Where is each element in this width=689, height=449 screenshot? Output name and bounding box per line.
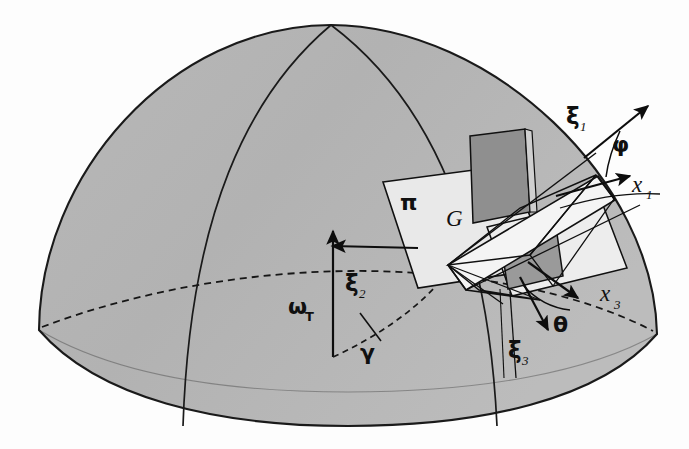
figure-root: ξ 1 φ x 1 π G ξ 2 x 3 ω T θ xyxy=(0,0,689,449)
label-xi3-symbol: ξ xyxy=(508,337,522,363)
label-x1: x 1 xyxy=(631,172,653,202)
label-xi2-subscript: 2 xyxy=(359,286,366,301)
label-phi: φ xyxy=(612,132,629,157)
label-x3-symbol: x xyxy=(599,281,611,306)
label-xi2-symbol: ξ xyxy=(345,270,359,296)
label-xi1-subscript: 1 xyxy=(580,119,587,134)
label-x1-symbol: x xyxy=(631,172,643,197)
label-G: G xyxy=(446,206,463,231)
label-x1-subscript: 1 xyxy=(646,187,653,202)
label-gamma: γ xyxy=(360,340,375,365)
label-omega-t-subscript: T xyxy=(305,309,314,324)
label-xi3-subscript: 3 xyxy=(521,353,529,368)
geometry-diagram: ξ 1 φ x 1 π G ξ 2 x 3 ω T θ xyxy=(0,0,689,449)
label-theta: θ xyxy=(553,312,568,337)
label-pi: π xyxy=(400,190,417,215)
label-x3-subscript: 3 xyxy=(613,297,621,312)
blade-upper xyxy=(470,129,537,223)
label-xi1: ξ 1 xyxy=(566,103,587,134)
label-xi1-symbol: ξ xyxy=(566,103,580,129)
